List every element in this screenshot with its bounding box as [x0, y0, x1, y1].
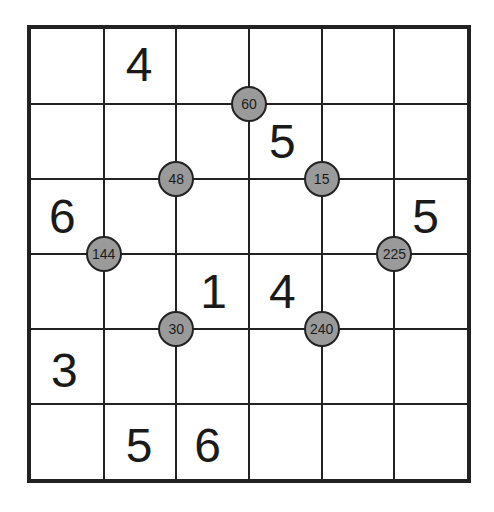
grid-cell[interactable]	[322, 29, 395, 104]
given-digit: 3	[51, 347, 78, 395]
grid-line-horizontal	[31, 328, 467, 330]
grid-cell[interactable]	[394, 404, 467, 479]
given-digit: 4	[126, 41, 153, 89]
grid-cell[interactable]	[31, 29, 104, 104]
grid-line-horizontal	[31, 178, 467, 180]
grid-cell[interactable]	[249, 404, 322, 479]
grid-line-horizontal	[31, 403, 467, 405]
puzzle-grid: 45651435660481514422530240	[27, 25, 471, 483]
given-digit: 5	[126, 422, 153, 470]
product-clue-circle: 60	[231, 86, 267, 122]
given-digit: 1	[200, 268, 227, 316]
given-digit: 5	[269, 118, 296, 166]
grid-cell[interactable]	[322, 404, 395, 479]
given-digit: 6	[49, 193, 76, 241]
given-digit: 6	[194, 422, 221, 470]
grid-cell[interactable]	[394, 29, 467, 104]
grid-cell[interactable]	[394, 104, 467, 179]
given-digit: 4	[269, 268, 296, 316]
grid-cell[interactable]	[31, 104, 104, 179]
product-clue-circle: 144	[86, 236, 122, 272]
grid-cell[interactable]	[31, 404, 104, 479]
product-clue-circle: 15	[304, 161, 340, 197]
product-clue-circle: 240	[304, 311, 340, 347]
grid-cell[interactable]	[394, 329, 467, 404]
given-digit: 5	[412, 193, 439, 241]
